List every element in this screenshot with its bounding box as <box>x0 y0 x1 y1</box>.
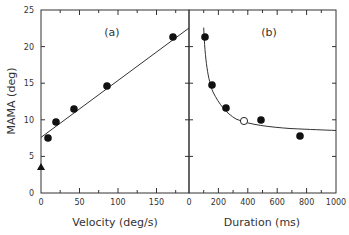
x-tick-labels-b: 200 400 600 800 1000 <box>211 198 346 207</box>
panel-a-points <box>37 33 177 170</box>
y-axis-label: MAMA (deg) <box>5 68 18 135</box>
data-point <box>201 33 209 41</box>
mama-chart: 0 5 10 15 20 25 0 50 100 150 0 200 400 6… <box>0 0 349 235</box>
x-axis-label-a: Velocity (deg/s) <box>72 216 157 229</box>
svg-text:15: 15 <box>24 79 34 88</box>
svg-text:50: 50 <box>74 198 84 207</box>
open-data-point <box>240 117 247 124</box>
data-point <box>257 116 265 124</box>
svg-text:400: 400 <box>240 198 255 207</box>
svg-text:0: 0 <box>186 198 191 207</box>
svg-text:25: 25 <box>24 6 34 15</box>
svg-text:20: 20 <box>24 43 34 52</box>
svg-text:0: 0 <box>29 189 34 198</box>
svg-text:0: 0 <box>38 198 43 207</box>
data-point <box>169 33 177 41</box>
data-point <box>44 134 52 142</box>
svg-text:150: 150 <box>149 198 164 207</box>
data-point <box>296 132 304 140</box>
x-tick-labels-a: 0 50 100 150 0 <box>38 198 191 207</box>
hyperbolic-fit-curve <box>204 28 336 131</box>
data-point <box>103 82 111 90</box>
panel-label-a: (a) <box>104 26 119 39</box>
triangle-point <box>37 163 45 170</box>
y-tick-labels: 0 5 10 15 20 25 <box>24 6 34 198</box>
svg-text:5: 5 <box>29 152 34 161</box>
data-point <box>52 118 60 126</box>
panel-label-b: (b) <box>261 26 277 39</box>
x-axis-label-b: Duration (ms) <box>224 216 300 229</box>
svg-text:10: 10 <box>24 116 34 125</box>
svg-text:1000: 1000 <box>326 198 346 207</box>
svg-text:200: 200 <box>211 198 226 207</box>
svg-text:600: 600 <box>270 198 285 207</box>
data-point <box>222 104 230 112</box>
data-point <box>70 105 78 113</box>
data-point <box>208 81 216 89</box>
svg-text:800: 800 <box>299 198 314 207</box>
linear-fit-line <box>41 28 189 137</box>
svg-text:100: 100 <box>110 198 125 207</box>
